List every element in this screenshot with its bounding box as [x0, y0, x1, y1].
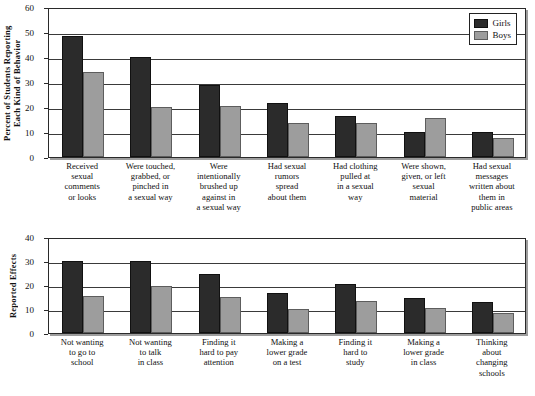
y-axis-tick-label: 10 — [0, 129, 42, 138]
bar-group — [186, 9, 254, 157]
x-axis-category-label: Had sexual messages written about them i… — [450, 161, 535, 212]
chart-panel-effects: Reported Effects 010203040 Not wanting t… — [0, 236, 535, 396]
bar-girls — [267, 103, 288, 157]
y-axis-tick-label: 0 — [0, 154, 42, 163]
chart-panel-behaviors: Percent of Students Reporting Each Kind … — [0, 0, 535, 232]
y-axis-tick-label: 40 — [0, 54, 42, 63]
bar-group — [254, 9, 322, 157]
bar-group — [117, 9, 185, 157]
bar-group — [254, 239, 322, 333]
figure: Percent of Students Reporting Each Kind … — [0, 0, 535, 396]
y-axis-tick-label: 50 — [0, 29, 42, 38]
bar-boys — [356, 301, 377, 333]
legend-item-girls: Girls — [474, 17, 511, 29]
bar-boys — [83, 296, 104, 333]
bar-group — [186, 239, 254, 333]
bar-girls — [199, 85, 220, 158]
bar-boys — [83, 72, 104, 157]
bar-group — [117, 239, 185, 333]
y-axis-tick-label: 0 — [0, 330, 42, 339]
bar-boys — [425, 118, 446, 157]
legend-box: Girls Boys — [469, 13, 517, 45]
bar-series-top — [49, 9, 525, 157]
bar-group — [49, 239, 117, 333]
y-axis-tick-label: 40 — [0, 234, 42, 243]
bar-boys — [288, 309, 309, 333]
legend-item-boys: Boys — [474, 29, 511, 41]
bar-girls — [335, 284, 356, 333]
y-axis-tick-label: 20 — [0, 104, 42, 113]
bar-girls — [404, 132, 425, 157]
bar-girls — [267, 293, 288, 333]
bar-boys — [493, 313, 514, 333]
y-axis-tick-label: 30 — [0, 258, 42, 267]
bar-girls — [335, 116, 356, 157]
y-axis-tick-label: 10 — [0, 306, 42, 315]
legend-label-girls: Girls — [492, 18, 510, 28]
bar-series-bottom — [49, 239, 525, 333]
bar-boys — [356, 123, 377, 157]
girls-swatch-icon — [474, 19, 488, 28]
bar-girls — [404, 298, 425, 333]
y-axis-tick-label: 30 — [0, 79, 42, 88]
bar-boys — [220, 106, 241, 157]
bar-girls — [130, 57, 151, 157]
y-axis-tick-label: 20 — [0, 282, 42, 291]
bar-group — [49, 9, 117, 157]
bar-boys — [220, 297, 241, 333]
bar-group — [322, 239, 390, 333]
bar-girls — [199, 274, 220, 333]
plot-area-behaviors: Girls Boys — [48, 8, 526, 158]
bar-boys — [151, 107, 172, 157]
bar-boys — [493, 138, 514, 157]
bar-boys — [151, 286, 172, 333]
bar-group — [390, 239, 458, 333]
boys-swatch-icon — [474, 31, 488, 40]
bar-girls — [130, 261, 151, 333]
bar-group — [390, 9, 458, 157]
bar-group — [459, 239, 527, 333]
bar-girls — [62, 36, 83, 157]
bar-girls — [62, 261, 83, 333]
bar-boys — [425, 308, 446, 333]
plot-area-effects — [48, 238, 526, 334]
legend-label-boys: Boys — [492, 30, 511, 40]
bar-girls — [472, 132, 493, 157]
bar-boys — [288, 123, 309, 157]
bar-group — [322, 9, 390, 157]
bar-girls — [472, 302, 493, 333]
x-axis-category-label: Thinking about changing schools — [450, 337, 535, 378]
y-axis-tick-label: 60 — [0, 4, 42, 13]
